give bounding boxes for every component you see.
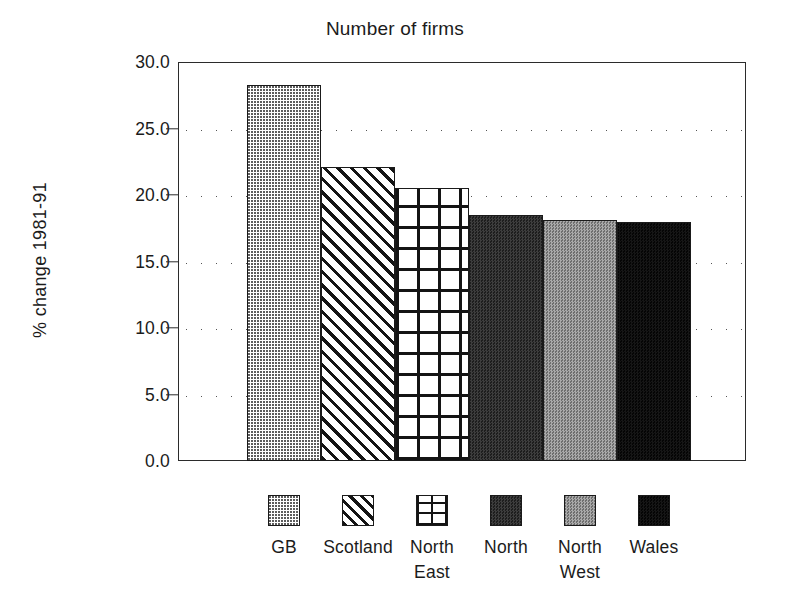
legend-swatch-grid-crosshatch-icon	[416, 495, 448, 526]
y-axis-tick-mark	[166, 394, 178, 395]
legend-item[interactable]: North West	[543, 495, 617, 585]
y-axis-tick-label: 30.0	[100, 52, 170, 73]
legend-label: Scotland	[321, 535, 395, 560]
legend-swatch-dark-checker-icon	[490, 495, 522, 526]
y-axis-title: % change 1981-91	[30, 140, 51, 380]
legend-swatch-solid-black-icon	[638, 495, 670, 526]
bar-series	[178, 62, 746, 461]
legend-item[interactable]: GB	[247, 495, 321, 560]
legend-item[interactable]: North	[469, 495, 543, 560]
legend-item[interactable]: Wales	[617, 495, 691, 560]
bar-north	[469, 215, 543, 461]
chart-legend: GBScotlandNorth EastNorthNorth WestWales	[178, 495, 746, 600]
legend-label: Wales	[617, 535, 691, 560]
legend-item[interactable]: North East	[395, 495, 469, 585]
y-axis-tick-label: 20.0	[100, 185, 170, 206]
y-axis-tick-mark	[166, 128, 178, 129]
y-axis-tick-mark	[166, 194, 178, 195]
bar-chart-figure: Number of firms % change 1981-91 30.025.…	[0, 0, 790, 615]
legend-swatch-diagonal-hatch-icon	[342, 495, 374, 526]
bar-gb	[247, 85, 321, 461]
y-axis-tick-label: 5.0	[100, 384, 170, 405]
bar-north-west	[543, 220, 617, 461]
chart-title: Number of firms	[0, 18, 790, 40]
y-axis-tick-mark	[166, 327, 178, 328]
y-axis-tick-label: 15.0	[100, 251, 170, 272]
bar-wales	[617, 222, 691, 461]
legend-label: GB	[247, 535, 321, 560]
y-axis-tick-labels: 30.025.020.015.010.05.00.0	[96, 62, 170, 461]
legend-label: North West	[543, 535, 617, 585]
legend-swatch-light-dotted-icon	[268, 495, 300, 526]
y-axis-tick-mark	[166, 261, 178, 262]
bar-north-east	[395, 188, 469, 461]
y-axis-tick-label: 25.0	[100, 118, 170, 139]
legend-label: North East	[395, 535, 469, 585]
legend-label: North	[469, 535, 543, 560]
y-axis-tick-label: 10.0	[100, 318, 170, 339]
legend-swatch-mid-gray-checker-icon	[564, 495, 596, 526]
legend-item[interactable]: Scotland	[321, 495, 395, 560]
y-axis-tick-label: 0.0	[100, 451, 170, 472]
bar-scotland	[321, 167, 395, 461]
